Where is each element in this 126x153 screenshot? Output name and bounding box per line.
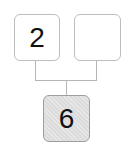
connector-right-vertical [96, 61, 97, 80]
whole-box: 6 [43, 95, 90, 142]
whole-value: 6 [59, 103, 75, 135]
part-left-value: 2 [29, 22, 45, 54]
connector-center-vertical [66, 80, 67, 95]
part-right-box[interactable] [74, 14, 121, 61]
part-left-box: 2 [14, 14, 60, 61]
connector-left-vertical [35, 61, 36, 80]
